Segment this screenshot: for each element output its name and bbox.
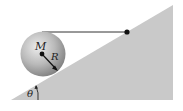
- radius-label: R: [50, 51, 59, 62]
- angle-label: θ: [27, 88, 33, 99]
- mass-label: M: [34, 40, 47, 53]
- attachment-point: [124, 29, 129, 34]
- incline-diagram: M R θ: [0, 0, 183, 111]
